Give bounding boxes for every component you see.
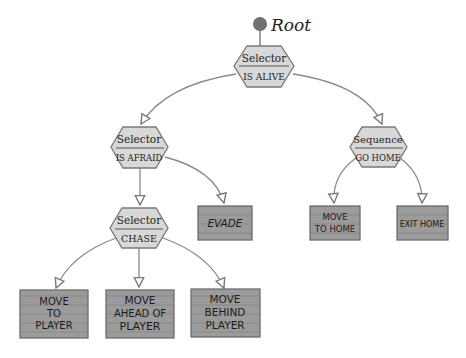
leaf-label-line-2: BEHIND bbox=[205, 306, 246, 318]
node-type-label: Selector bbox=[242, 52, 287, 64]
leaf-move-to-player[interactable]: MOVE TO PLAYER bbox=[20, 290, 88, 338]
node-condition-label: GO HOME bbox=[355, 153, 401, 163]
edge-chase-to-move-behind-player bbox=[163, 238, 224, 288]
leaf-move-ahead-of-player[interactable]: MOVE AHEAD OF PLAYER bbox=[106, 290, 174, 338]
edge-is-alive-to-go-home bbox=[293, 74, 382, 124]
leaf-exit-home[interactable]: EXIT HOME bbox=[397, 206, 448, 240]
edge-go-home-to-move-to-home bbox=[334, 158, 356, 203]
behavior-tree-diagram: Root Selector IS ALIVE Selector IS AFRAI… bbox=[0, 0, 466, 358]
leaf-label-line-1: MOVE bbox=[125, 294, 156, 306]
root-label: Root bbox=[270, 15, 311, 35]
leaf-label-line-2: AHEAD OF bbox=[114, 308, 166, 319]
node-chase[interactable]: Selector CHASE bbox=[110, 208, 168, 248]
node-is-alive[interactable]: Selector IS ALIVE bbox=[234, 46, 294, 87]
leaf-label-line-1: MOVE bbox=[322, 212, 347, 222]
leaf-label-line-1: MOVE bbox=[210, 293, 241, 305]
node-type-label: Sequence bbox=[353, 134, 403, 145]
leaf-label: EVADE bbox=[207, 217, 242, 229]
node-type-label: Selector bbox=[117, 214, 162, 226]
leaf-label-line-3: PLAYER bbox=[35, 320, 72, 331]
leaf-label-line-3: PLAYER bbox=[120, 320, 161, 333]
edge-go-home-to-exit-home bbox=[400, 158, 422, 203]
node-is-afraid[interactable]: Selector IS AFRAID bbox=[111, 127, 168, 168]
edge-is-alive-to-is-afraid bbox=[141, 74, 236, 124]
node-condition-label: IS AFRAID bbox=[116, 153, 163, 163]
edges bbox=[56, 74, 422, 288]
node-go-home[interactable]: Sequence GO HOME bbox=[350, 127, 407, 167]
root-node: Root bbox=[253, 15, 311, 46]
node-condition-label: CHASE bbox=[121, 233, 157, 244]
leaf-label-line-1: MOVE bbox=[39, 296, 68, 307]
edge-chase-to-move-to-player bbox=[56, 238, 116, 288]
leaf-label-line-2: TO bbox=[46, 308, 61, 319]
root-dot-icon bbox=[253, 17, 267, 31]
leaf-label-line-3: PLAYER bbox=[205, 319, 244, 331]
leaf-move-to-home[interactable]: MOVE TO HOME bbox=[310, 206, 360, 240]
edge-is-afraid-to-evade bbox=[165, 157, 224, 203]
leaf-label-line-2: TO HOME bbox=[314, 224, 355, 234]
leaf-move-behind-player[interactable]: MOVE BEHIND PLAYER bbox=[191, 289, 260, 337]
leaf-label: EXIT HOME bbox=[400, 220, 445, 229]
leaf-evade[interactable]: EVADE bbox=[198, 206, 252, 240]
node-type-label: Selector bbox=[117, 133, 162, 145]
node-condition-label: IS ALIVE bbox=[243, 72, 285, 82]
